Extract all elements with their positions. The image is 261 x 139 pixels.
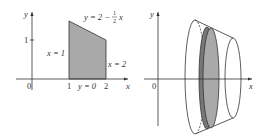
x-tick-label-1: 1 <box>67 81 71 91</box>
svg-text:1: 1 <box>113 10 116 16</box>
svg-text:2: 2 <box>113 18 116 24</box>
svg-text:x: x <box>118 12 123 22</box>
origin-label: 0 <box>27 81 31 91</box>
x-tick-label-2: 2 <box>104 81 108 91</box>
top-curve-label: y = 2 − 1 2 x <box>83 10 123 24</box>
right-curve-label: x = 2 <box>107 59 127 69</box>
shaded-region <box>69 21 106 79</box>
y-tick-label-1: 1 <box>24 35 28 45</box>
svg-text:y = 2 −: y = 2 − <box>83 12 110 22</box>
diagram-canvas: y 1 0 1 2 x y = 0 x = 1 x = 2 y = 2 − 1 … <box>0 0 261 139</box>
left-curve-label: x = 1 <box>46 48 65 58</box>
large-end-ellipse-front <box>185 20 195 134</box>
y-axis-label-right: y <box>149 9 154 19</box>
bottom-curve-label: y = 0 <box>77 81 97 91</box>
right-plot: y 0 x <box>144 9 253 134</box>
origin-label-right: 0 <box>152 81 156 91</box>
y-axis-label: y <box>23 9 28 19</box>
left-plot: y 1 0 1 2 x y = 0 x = 1 x = 2 y = 2 − 1 … <box>16 9 130 91</box>
small-end-ellipse <box>225 38 241 118</box>
x-axis-label-right: x <box>248 81 253 91</box>
x-axis-label: x <box>125 81 130 91</box>
disk-face <box>203 28 219 128</box>
